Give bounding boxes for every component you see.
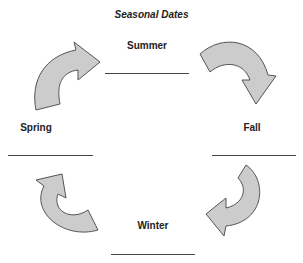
curved-arrow-icon-spring-to-summer [35, 42, 100, 110]
curved-arrow-icon-fall-to-winter [206, 165, 260, 236]
cycle-arrows [0, 0, 303, 263]
curved-arrow-icon-winter-to-spring [36, 174, 98, 232]
curved-arrow-icon-summer-to-fall [200, 42, 276, 104]
